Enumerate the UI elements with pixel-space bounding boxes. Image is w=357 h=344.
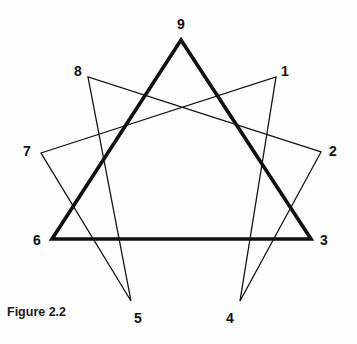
figure-caption: Figure 2.2 — [7, 305, 66, 319]
node-label-8: 8 — [74, 64, 82, 78]
node-label-1: 1 — [281, 64, 289, 78]
node-label-4: 4 — [226, 311, 234, 325]
triangle-9-3-6 — [52, 40, 311, 239]
enneagram-diagram — [0, 0, 357, 344]
node-label-5: 5 — [134, 311, 142, 325]
figure-container: 912345678 Figure 2.2 — [0, 0, 357, 344]
node-label-3: 3 — [320, 233, 328, 247]
node-label-7: 7 — [23, 144, 31, 158]
node-label-2: 2 — [329, 144, 337, 158]
node-label-9: 9 — [177, 17, 185, 31]
node-label-6: 6 — [33, 233, 41, 247]
inner-triangle — [52, 40, 311, 239]
